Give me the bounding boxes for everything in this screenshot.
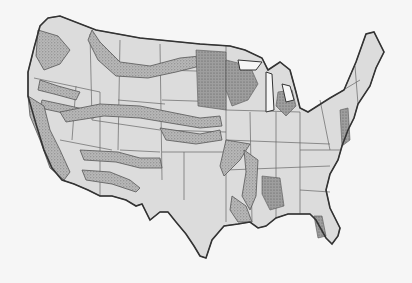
map-figure — [0, 0, 412, 283]
us-map — [0, 0, 412, 283]
